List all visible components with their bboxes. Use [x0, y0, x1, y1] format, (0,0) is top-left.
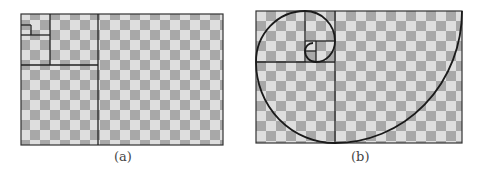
figure-canvas — [0, 0, 477, 175]
panel-a — [21, 14, 223, 145]
caption-a: (a) — [114, 149, 132, 164]
panel-b — [256, 11, 462, 143]
caption-b: (b) — [351, 149, 369, 164]
panel-a-checkerboard — [21, 14, 223, 145]
panel-b-checkerboard — [256, 11, 462, 143]
